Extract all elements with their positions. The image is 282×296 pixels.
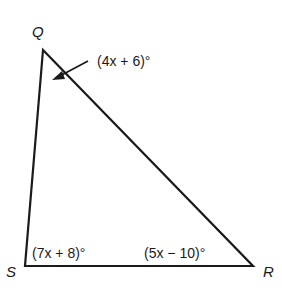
vertex-label-q: Q xyxy=(32,23,44,40)
angle-label-q: (4x + 6)° xyxy=(97,53,150,69)
triangle-diagram: Q S R (4x + 6)° (7x + 8)° (5x − 10)° xyxy=(0,0,282,296)
angle-label-s: (7x + 8)° xyxy=(32,245,85,261)
angle-label-r: (5x − 10)° xyxy=(144,245,205,261)
triangle-qsr xyxy=(25,50,253,266)
vertex-label-s: S xyxy=(6,263,16,280)
vertex-label-r: R xyxy=(263,263,274,280)
